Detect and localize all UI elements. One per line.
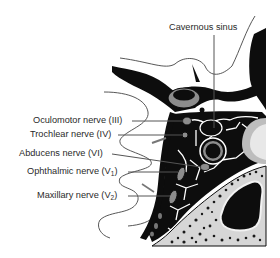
small-sliver-2 bbox=[142, 184, 154, 192]
brain-outline-temporal bbox=[98, 92, 151, 238]
oculomotor-nerve-shape bbox=[183, 117, 192, 125]
carotid-upper-lumen bbox=[173, 90, 195, 101]
label-trochlear-nerve: Trochlear nerve (IV) bbox=[30, 129, 111, 140]
label-ophthalmic-nerve: Ophthalmic nerve (V1) bbox=[27, 166, 117, 179]
ophthalmic-suffix: ) bbox=[114, 166, 117, 176]
trochlear-nerve-shape bbox=[182, 132, 188, 138]
label-maxillary-nerve: Maxillary nerve (V2) bbox=[37, 190, 117, 203]
label-oculomotor-nerve: Oculomotor nerve (III) bbox=[33, 115, 122, 126]
abducens-nerve-shape bbox=[201, 164, 210, 171]
carotid-sinus-lumen bbox=[206, 144, 221, 159]
label-cavernous-sinus: Cavernous sinus bbox=[169, 22, 237, 33]
maxillary-suffix: ) bbox=[114, 190, 117, 200]
sinus-lumen bbox=[200, 120, 222, 136]
label-abducens-nerve: Abducens nerve (VI) bbox=[19, 148, 103, 159]
anterior-clinoid-notch bbox=[192, 64, 200, 82]
ophthalmic-text: Ophthalmic nerve (V bbox=[27, 166, 111, 176]
maxillary-text: Maxillary nerve (V bbox=[37, 190, 111, 200]
right-dark-wedge bbox=[249, 28, 266, 110]
